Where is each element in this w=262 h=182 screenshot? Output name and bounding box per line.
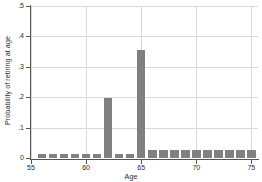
y-tick-mark: [26, 97, 30, 98]
plot-area: [31, 6, 258, 158]
bar: [170, 150, 179, 158]
bar: [93, 154, 102, 158]
bar: [148, 150, 157, 158]
gridline-horizontal: [31, 6, 258, 7]
y-axis-title-text: Probability of retiring at age: [3, 36, 12, 125]
x-tick-label: 65: [131, 164, 151, 171]
y-tick-label: .2: [6, 93, 24, 100]
y-tick-mark: [26, 67, 30, 68]
bar: [203, 150, 212, 158]
y-tick-label: .1: [6, 124, 24, 131]
bar: [137, 50, 146, 158]
y-tick-label: .3: [6, 63, 24, 70]
bar: [38, 154, 47, 158]
gridline-vertical: [251, 6, 252, 158]
bar: [104, 98, 113, 158]
bar: [49, 154, 58, 158]
y-tick-mark: [26, 158, 30, 159]
x-tick-label: 55: [21, 164, 41, 171]
gridline-horizontal: [31, 36, 258, 37]
y-tick-mark: [26, 6, 30, 7]
bar: [60, 154, 69, 158]
y-axis-title: Probability of retiring at age: [0, 0, 14, 160]
y-tick-label: .5: [6, 2, 24, 9]
x-tick-label: 70: [186, 164, 206, 171]
bar: [192, 150, 201, 158]
bar: [225, 150, 234, 158]
bar: [181, 150, 190, 158]
y-tick-label: .4: [6, 32, 24, 39]
gridline-vertical: [31, 6, 32, 158]
retirement-probability-bar-chart: Probability of retiring at age Age 0.1.2…: [0, 0, 262, 182]
y-tick-mark: [26, 36, 30, 37]
y-axis-line: [30, 5, 31, 159]
bar: [236, 150, 245, 158]
gridline-vertical: [196, 6, 197, 158]
x-axis-line: [30, 159, 259, 160]
x-axis-title: Age: [0, 172, 262, 181]
bar: [82, 154, 91, 158]
bar: [71, 154, 80, 158]
bar: [214, 150, 223, 158]
x-tick-label: 75: [241, 164, 261, 171]
x-tick-label: 60: [76, 164, 96, 171]
y-tick-mark: [26, 128, 30, 129]
gridline-vertical: [86, 6, 87, 158]
bar: [126, 154, 135, 158]
bar: [159, 150, 168, 158]
y-tick-label: 0: [6, 154, 24, 161]
bar: [115, 154, 124, 158]
bar: [247, 150, 256, 158]
